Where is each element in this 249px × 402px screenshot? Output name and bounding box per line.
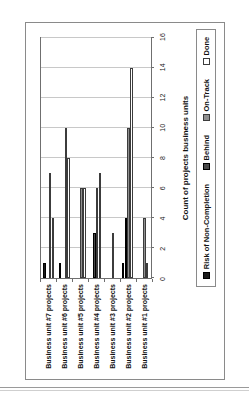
bar	[145, 263, 147, 278]
legend-swatch-icon	[202, 163, 209, 170]
category-tick	[136, 279, 137, 282]
category-label: Business unit #5 projects	[76, 284, 83, 369]
value-tick-label: 10	[159, 124, 166, 132]
bar	[83, 188, 85, 278]
bar	[124, 218, 126, 278]
chart-legend: Risk of Non-CompletionBehindOn-TrackDone	[196, 29, 216, 287]
bar-group	[103, 38, 119, 278]
value-tick-label: 16	[159, 33, 166, 41]
bar	[48, 173, 50, 278]
legend-item[interactable]: On-Track	[201, 79, 210, 122]
bar	[67, 158, 69, 278]
category-tick	[88, 279, 89, 282]
legend-label: On-Track	[201, 79, 210, 112]
category-tick	[72, 279, 73, 282]
legend-swatch-icon	[202, 114, 209, 121]
bar	[121, 263, 123, 278]
category-label: Business unit #1 projects	[140, 284, 147, 369]
category-label: Business unit #3 projects	[108, 284, 115, 369]
chart-frame: Business unit #7 projectsBusiness unit #…	[25, 22, 225, 380]
category-label: Business unit #7 projects	[44, 284, 51, 369]
bar-group	[119, 38, 135, 278]
bar-group	[41, 38, 57, 278]
bar	[64, 128, 66, 278]
legend-label: Done	[201, 37, 210, 56]
bar	[58, 263, 60, 278]
category-tick	[152, 279, 153, 282]
bar-group	[72, 38, 88, 278]
legend-swatch-icon	[202, 272, 209, 279]
plot-area	[40, 37, 152, 279]
value-tick-label: 6	[159, 186, 166, 190]
category-label: Business unit #4 projects	[92, 284, 99, 369]
legend-item[interactable]: Risk of Non-Completion	[201, 184, 210, 279]
value-tick-label: 8	[159, 156, 166, 160]
bar	[111, 233, 113, 278]
legend-label: Risk of Non-Completion	[201, 184, 210, 269]
bar	[93, 233, 95, 278]
sheet-divider-secondary	[0, 390, 249, 391]
bar	[127, 128, 129, 278]
bar	[98, 173, 100, 278]
page-canvas: Business unit #7 projectsBusiness unit #…	[0, 0, 249, 402]
bar	[51, 218, 53, 278]
axis-title: Count of projects business units	[181, 29, 190, 287]
bar	[143, 218, 145, 278]
category-tick	[56, 279, 57, 282]
bar-group	[88, 38, 104, 278]
legend-item[interactable]: Done	[201, 37, 210, 66]
bar	[80, 188, 82, 278]
bar	[43, 263, 45, 278]
category-tick	[104, 279, 105, 282]
value-tick-label: 12	[159, 94, 166, 102]
value-tick-label: 0	[159, 277, 166, 281]
category-tick	[120, 279, 121, 282]
legend-item[interactable]: Behind	[201, 135, 210, 170]
bar-groups	[41, 38, 151, 278]
value-tick-label: 4	[159, 217, 166, 221]
legend-swatch-icon	[202, 59, 209, 66]
plot-outer: Business unit #7 projectsBusiness unit #…	[36, 31, 166, 371]
bar	[95, 188, 97, 278]
legend-label: Behind	[201, 135, 210, 160]
category-tick	[40, 279, 41, 282]
bar	[130, 68, 132, 278]
bar-group	[56, 38, 72, 278]
value-tick-label: 2	[159, 247, 166, 251]
value-tick-label: 14	[159, 63, 166, 71]
sheet-divider	[0, 387, 249, 388]
category-label: Business unit #2 projects	[124, 284, 131, 369]
rotated-chart-wrapper: Business unit #7 projectsBusiness unit #…	[25, 22, 225, 380]
category-label: Business unit #6 projects	[60, 284, 67, 369]
bar-group	[135, 38, 151, 278]
category-axis-labels: Business unit #7 projectsBusiness unit #…	[40, 281, 152, 371]
